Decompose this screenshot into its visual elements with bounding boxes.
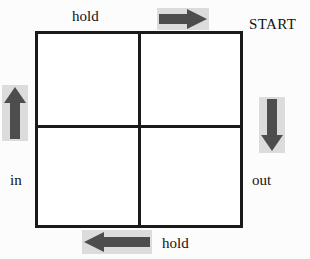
label-out: out bbox=[252, 173, 271, 188]
arrow-right-icon bbox=[157, 8, 209, 30]
label-start: START bbox=[249, 17, 296, 32]
label-hold-bottom: hold bbox=[162, 236, 189, 251]
arrow-left-icon bbox=[82, 230, 152, 254]
grid-divider-horizontal bbox=[35, 125, 243, 128]
grid-divider-vertical bbox=[138, 31, 141, 228]
arrow-down-icon bbox=[259, 97, 285, 153]
breathing-cycle-diagram: hold START in out hold bbox=[0, 0, 310, 259]
arrow-up-icon bbox=[2, 85, 28, 141]
label-hold-top: hold bbox=[72, 9, 99, 24]
label-in: in bbox=[10, 173, 22, 188]
